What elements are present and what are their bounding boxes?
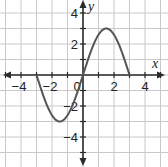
y-axis-up-arrow-icon	[80, 0, 87, 8]
y-tick-label: 4	[71, 6, 78, 21]
y-axis-down-arrow-icon	[80, 158, 87, 166]
x-axis-left-arrow-icon	[3, 72, 11, 79]
y-axis-label: y	[86, 0, 95, 14]
x-tick-label: 4	[141, 79, 148, 94]
x-tick-label: −2	[43, 79, 58, 94]
y-tick-label: 2	[71, 37, 78, 52]
x-tick-label: −4	[12, 79, 27, 94]
y-tick-label: −4	[63, 130, 78, 145]
x-tick-label: 2	[110, 79, 117, 94]
function-graph: −4−202442−2−4 x y	[0, 0, 168, 167]
x-axis-label: x	[151, 56, 159, 71]
